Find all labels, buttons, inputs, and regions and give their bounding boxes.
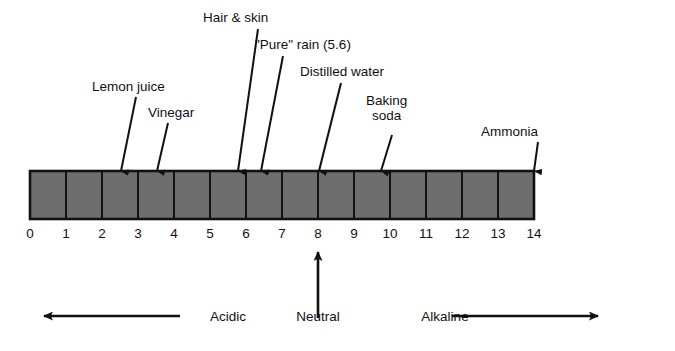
zone-label-acidic: Acidic	[190, 309, 266, 324]
ph-tick-label: 0	[15, 226, 45, 241]
callout-label: Distilled water	[300, 64, 384, 79]
zone-label-alkaline: Alkaline	[405, 309, 485, 324]
callout-arrow	[534, 142, 538, 171]
callout-arrow	[261, 56, 283, 171]
ph-scale-figure: Lemon juiceVinegarHair & skin"Pure" rain…	[0, 0, 675, 351]
ph-cell	[246, 171, 282, 219]
ph-cell	[318, 171, 354, 219]
ph-tick-label: 2	[87, 226, 117, 241]
ph-cell	[138, 171, 174, 219]
ph-tick-label: 6	[231, 226, 261, 241]
ph-cell	[426, 171, 462, 219]
ph-cell	[210, 171, 246, 219]
ph-cell	[462, 171, 498, 219]
callout-label: Baking soda	[366, 93, 407, 123]
ph-cell	[102, 171, 138, 219]
ph-tick-label: 11	[411, 226, 441, 241]
ph-tick-label: 14	[519, 226, 549, 241]
ph-tick-label: 1	[51, 226, 81, 241]
ph-cell	[498, 171, 534, 219]
ph-cell	[282, 171, 318, 219]
ph-cell	[66, 171, 102, 219]
ph-tick-label: 8	[303, 226, 333, 241]
zone-label-neutral: Neutral	[281, 309, 355, 324]
ph-tick-label: 5	[195, 226, 225, 241]
ph-cell	[354, 171, 390, 219]
callout-label: "Pure" rain (5.6)	[255, 37, 351, 52]
callout-arrow	[121, 97, 136, 171]
callout-arrow	[381, 135, 392, 171]
ph-tick-label: 7	[267, 226, 297, 241]
diagram-canvas	[0, 0, 675, 351]
callout-arrow	[319, 83, 341, 171]
ph-cell	[390, 171, 426, 219]
callout-label: Vinegar	[148, 105, 194, 120]
callout-label: Hair & skin	[203, 10, 268, 25]
ph-cell	[30, 171, 66, 219]
ph-cell	[174, 171, 210, 219]
callout-arrow	[157, 123, 168, 171]
callout-label: Lemon juice	[92, 79, 165, 94]
callout-label: Ammonia	[481, 124, 538, 139]
ph-tick-label: 13	[483, 226, 513, 241]
ph-tick-label: 9	[339, 226, 369, 241]
ph-scale-bar	[30, 171, 534, 219]
ph-tick-label: 12	[447, 226, 477, 241]
ph-tick-label: 4	[159, 226, 189, 241]
ph-tick-label: 10	[375, 226, 405, 241]
ph-tick-label: 3	[123, 226, 153, 241]
